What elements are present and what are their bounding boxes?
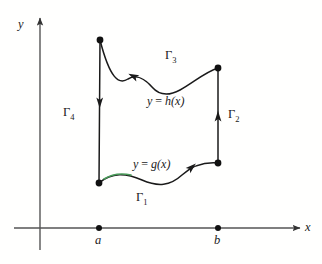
- function-label-g: y = g(x): [133, 158, 170, 170]
- h-equals: =: [152, 94, 165, 108]
- x-axis-label: x: [305, 221, 311, 234]
- y-axis-label: y: [18, 18, 24, 31]
- tick-label-a: a: [95, 234, 101, 247]
- tick-label-b: b: [214, 234, 220, 247]
- vertex-dot-bottom-left: [96, 180, 103, 187]
- vertex-dot-top-left: [97, 37, 104, 44]
- highlight-arc-gamma1: [104, 174, 131, 179]
- vertex-dot-group: [96, 37, 222, 231]
- function-label-h: y = h(x): [147, 95, 184, 107]
- tick-dot-a: [96, 225, 102, 231]
- diagram-canvas: [0, 0, 322, 264]
- curve-gamma4: [99, 40, 100, 183]
- gamma2-subscript: 2: [235, 114, 239, 124]
- curve-label-gamma1: Γ1: [136, 191, 147, 206]
- vertex-dot-bottom-right: [215, 160, 222, 167]
- axis-group: [14, 18, 300, 250]
- g-rhs: g(x): [151, 157, 170, 171]
- curve-label-gamma4: Γ4: [63, 106, 74, 121]
- gamma3-subscript: 3: [172, 55, 176, 65]
- vertex-dot-top-right: [215, 65, 222, 72]
- orientation-arrow-gamma3: [127, 71, 140, 82]
- curve-label-gamma2: Γ2: [228, 108, 239, 123]
- math-diagram: y x a b Γ1 Γ2 Γ3 Γ4 y = g(x) y = h(x): [0, 0, 322, 264]
- h-rhs: h(x): [165, 94, 184, 108]
- curve-gamma3: [100, 40, 218, 94]
- curve-label-gamma3: Γ3: [165, 49, 176, 64]
- gamma1-subscript: 1: [143, 197, 147, 207]
- tick-dot-b: [215, 225, 221, 231]
- gamma4-subscript: 4: [70, 112, 74, 122]
- g-equals: =: [138, 157, 151, 171]
